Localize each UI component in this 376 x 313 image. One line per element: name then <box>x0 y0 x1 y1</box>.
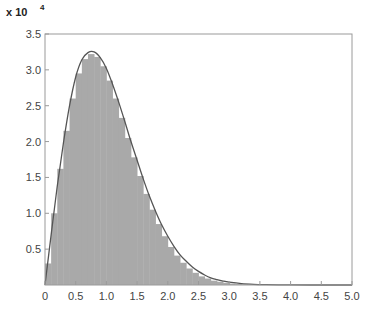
histogram-bar <box>131 157 138 285</box>
histogram-bar <box>174 256 181 285</box>
y-tick-label: 3.0 <box>26 64 41 76</box>
histogram-bar <box>205 279 212 285</box>
histogram-bar <box>94 57 101 285</box>
x-tick-label: 3.0 <box>222 290 237 302</box>
y-multiplier-exponent: 4 <box>40 3 45 12</box>
x-tick-label: 1.5 <box>129 290 144 302</box>
y-tick-label: 1.5 <box>26 171 41 183</box>
histogram-bar <box>199 276 206 285</box>
histogram-bar <box>137 176 144 285</box>
y-axis-ticks: 0.51.01.52.02.53.03.5 <box>26 28 49 255</box>
x-tick-label: 1.0 <box>99 290 114 302</box>
x-tick-label: 5.0 <box>344 290 359 302</box>
x-tick-label: 4.5 <box>314 290 329 302</box>
histogram-bar <box>113 99 120 285</box>
x-tick-label: 4.0 <box>283 290 298 302</box>
y-multiplier-label: x 10 <box>6 6 27 18</box>
histogram-bar <box>156 224 163 285</box>
x-tick-label: 2.0 <box>160 290 175 302</box>
y-tick-label: 2.0 <box>26 136 41 148</box>
histogram-bar <box>63 131 70 285</box>
histogram-bar <box>125 138 132 285</box>
histogram-bar <box>88 54 95 285</box>
histogram-bar <box>162 236 169 285</box>
x-tick-label: 0 <box>42 290 48 302</box>
histogram-bar <box>143 194 150 285</box>
histogram-bar <box>149 210 156 285</box>
chart: 00.51.01.52.02.53.03.54.04.55.0 0.51.01.… <box>0 0 376 313</box>
histogram-bar <box>186 269 193 285</box>
histogram-bar <box>192 273 199 285</box>
histogram-bars <box>45 54 260 285</box>
histogram-bar <box>168 247 175 285</box>
histogram-bar <box>119 118 126 285</box>
y-tick-label: 2.5 <box>26 100 41 112</box>
histogram-bar <box>70 99 77 285</box>
histogram-bar <box>100 66 107 285</box>
y-tick-label: 3.5 <box>26 28 41 40</box>
x-tick-label: 2.5 <box>191 290 206 302</box>
histogram-bar <box>106 81 113 285</box>
histogram-bar <box>76 73 83 285</box>
x-tick-label: 0.5 <box>68 290 83 302</box>
histogram-bar <box>180 263 187 285</box>
y-tick-label: 0.5 <box>26 243 41 255</box>
histogram-bar <box>82 59 89 285</box>
y-tick-label: 1.0 <box>26 207 41 219</box>
histogram-bar <box>211 281 218 285</box>
x-tick-label: 3.5 <box>252 290 267 302</box>
histogram-bar <box>57 169 64 285</box>
